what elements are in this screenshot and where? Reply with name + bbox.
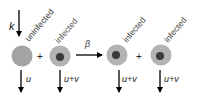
decay-label-4: u+v (164, 74, 179, 84)
cell-label-uninfected: uninfected (23, 7, 56, 44)
cell-label-infected-2: infected (121, 15, 148, 44)
decay-label-1: u (26, 74, 31, 84)
infected-cell-2 (107, 45, 128, 66)
decay-label-2: u+v (64, 74, 79, 84)
inflow-rate-label: k (9, 20, 15, 32)
uninfected-cell (12, 46, 33, 67)
infection-rate-label: β (84, 39, 90, 49)
infected-cell-3 (151, 45, 172, 66)
decay-label-3: u+v (122, 74, 137, 84)
infected-cell-1 (50, 46, 71, 67)
plus-sign-2: + (136, 51, 142, 62)
cell-label-infected-3: infected (162, 15, 189, 44)
plus-sign-1: + (37, 51, 43, 62)
cell-label-infected-1: infected (53, 16, 80, 45)
infection-diagram: k uninfected infected infected infected … (0, 0, 202, 97)
